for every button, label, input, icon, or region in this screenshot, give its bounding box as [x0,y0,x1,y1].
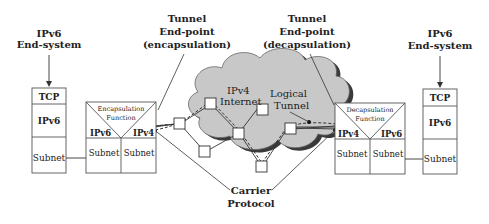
router-icon [233,128,244,139]
svg-text:IPv6: IPv6 [38,116,60,126]
left-end-system: IPv6 End-system TCP IPv6 Subnet [17,28,82,173]
svg-text:TCP: TCP [430,93,451,103]
svg-text:TCP: TCP [39,92,60,102]
svg-text:Function: Function [106,114,135,122]
svg-text:Protocol: Protocol [227,198,275,209]
logical-tunnel-label-1: Logical [270,88,307,99]
svg-text:End-system: End-system [17,39,82,50]
svg-text:IPv6: IPv6 [90,128,111,138]
encapsulation-router: Encapsulation Function IPv6 IPv4 Subnet … [86,102,156,173]
svg-text:IPv6: IPv6 [429,118,451,128]
svg-text:Encapsulation: Encapsulation [98,105,145,113]
svg-text:Function: Function [355,115,384,123]
svg-text:IPv4: IPv4 [338,129,359,139]
decapsulation-router: Decapsulation Function IPv4 IPv6 Subnet … [335,103,405,174]
svg-text:Tunnel: Tunnel [168,13,207,24]
svg-text:End-system: End-system [408,40,473,51]
svg-text:End-point: End-point [159,26,215,37]
ipv6-tunnel-diagram: IPv4 Internet Logical Tunnel IPv6 End-sy… [0,0,489,224]
svg-text:Subnet: Subnet [33,153,66,163]
router-icon [199,146,210,157]
router-icon [205,98,216,109]
svg-text:Tunnel: Tunnel [288,13,327,24]
svg-text:(decapsulation): (decapsulation) [263,39,351,50]
cloud-label-internet: Internet [220,96,261,107]
svg-text:End-point: End-point [279,26,335,37]
cloud-label-ipv4: IPv4 [227,85,250,96]
router-icon [256,161,267,172]
svg-text:IPv6: IPv6 [37,28,62,39]
router-icon [285,123,296,134]
svg-text:IPv6: IPv6 [381,129,402,139]
logical-tunnel-label-2: Tunnel [274,100,309,111]
svg-text:Subnet: Subnet [89,148,120,158]
right-end-system: IPv6 End-system TCP IPv6 Subnet [408,28,473,174]
svg-text:Subnet: Subnet [373,149,404,159]
svg-text:Carrier: Carrier [231,185,272,196]
svg-text:Subnet: Subnet [124,148,155,158]
router-icon [174,118,185,129]
svg-text:Subnet: Subnet [337,149,368,159]
svg-text:IPv6: IPv6 [428,28,453,39]
svg-text:IPv4: IPv4 [133,128,154,138]
svg-text:Decapsulation: Decapsulation [346,106,393,114]
svg-text:Subnet: Subnet [424,154,457,164]
svg-text:(encapsulation): (encapsulation) [143,39,231,50]
